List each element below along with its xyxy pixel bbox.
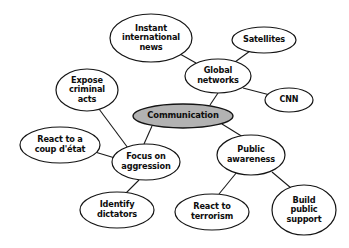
node-cnn[interactable] — [265, 88, 313, 112]
edge-focus-on-aggression-to-react-to-a-coup-detat — [95, 152, 115, 158]
edge-public-awareness-to-build-public-support — [272, 172, 291, 188]
edge-global-networks-to-instant-international-news — [180, 54, 196, 63]
node-instant-international-news[interactable] — [110, 14, 192, 62]
edge-focus-on-aggression-to-expose-criminal-acts — [99, 109, 128, 148]
edge-communication-to-global-networks — [210, 93, 218, 105]
node-global-networks[interactable] — [185, 59, 251, 93]
node-identify-dictators[interactable] — [80, 192, 154, 228]
node-communication[interactable] — [133, 104, 233, 128]
mind-map-svg — [0, 0, 349, 248]
node-react-to-terrorism[interactable] — [175, 194, 249, 230]
node-expose-criminal-acts[interactable] — [56, 69, 118, 111]
node-react-to-a-coup-detat[interactable] — [20, 127, 100, 163]
node-focus-on-aggression[interactable] — [112, 144, 180, 180]
edge-public-awareness-to-react-to-terrorism — [219, 172, 237, 194]
node-build-public-support[interactable] — [272, 185, 336, 235]
nodes-layer — [20, 14, 336, 235]
edge-global-networks-to-satellites — [235, 51, 250, 62]
mind-map-canvas: CommunicationGlobal networksInstant inte… — [0, 0, 349, 248]
node-public-awareness[interactable] — [217, 135, 285, 175]
edge-focus-on-aggression-to-identify-dictators — [126, 180, 139, 193]
edge-global-networks-to-cnn — [243, 88, 270, 95]
edge-communication-to-public-awareness — [222, 124, 243, 137]
edge-communication-to-focus-on-aggression — [144, 126, 152, 144]
node-satellites[interactable] — [232, 27, 296, 53]
